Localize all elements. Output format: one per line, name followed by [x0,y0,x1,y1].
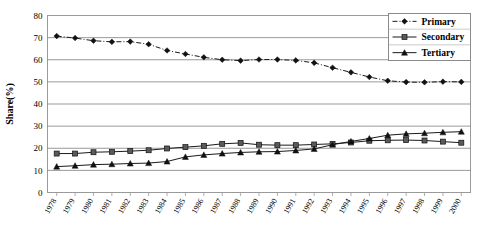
y-tick-label: 70 [34,33,44,43]
data-point-marker [73,151,78,156]
chart-container: 01020304050607080 1978197919801981198219… [0,0,483,235]
data-point-marker [201,143,206,148]
data-point-marker [257,142,262,147]
data-point-marker [109,149,114,154]
data-point-marker [275,143,280,148]
data-point-marker [238,140,243,145]
x-tick-label: 1987 [208,197,224,215]
x-tick-label: 1978 [43,197,59,215]
y-tick-label: 50 [34,77,44,87]
y-tick-label: 80 [34,11,44,21]
data-point-marker [459,140,464,145]
y-tick-label: 60 [34,55,44,65]
x-tick-label: 1982 [116,197,132,215]
legend-label-primary: Primary [422,17,457,27]
x-axis-tick-labels: 1978197919801981198219831984198519861987… [43,197,463,215]
x-tick-label: 1996 [374,197,390,215]
x-tick-label: 1990 [263,197,279,215]
x-tick-label: 2000 [447,197,463,215]
data-point-marker [293,143,298,148]
x-tick-label: 1998 [410,197,426,215]
x-tick-label: 1993 [319,197,335,215]
y-axis-tick-labels: 01020304050607080 [34,11,44,198]
data-point-marker [404,138,409,143]
x-tick-label: 1986 [190,197,206,215]
x-tick-label: 1991 [282,197,298,215]
x-tick-label: 1994 [337,197,353,215]
data-point-marker [54,151,59,156]
y-axis-title: Share(%) [4,83,16,124]
data-point-marker [440,139,445,144]
x-tick-label: 1983 [135,197,151,215]
data-point-marker [128,149,133,154]
x-tick-label: 1985 [171,197,187,215]
x-tick-label: 1992 [300,197,316,215]
line-chart: 01020304050607080 1978197919801981198219… [0,0,483,235]
x-tick-label: 1980 [79,197,95,215]
x-tick-label: 1988 [227,197,243,215]
x-tick-label: 1995 [355,197,371,215]
data-point-marker [385,138,390,143]
data-point-marker [402,35,407,40]
legend-label-tertiary: Tertiary [422,48,456,58]
data-point-marker [165,146,170,151]
legend-label-secondary: Secondary [422,32,465,42]
x-tick-label: 1981 [98,197,114,215]
chart-legend: PrimarySecondaryTertiary [389,14,471,61]
x-tick-label: 1999 [429,197,445,215]
x-tick-label: 1979 [61,197,77,215]
data-point-marker [422,138,427,143]
data-point-marker [146,148,151,153]
x-tick-label: 1997 [392,197,408,215]
data-point-marker [91,150,96,155]
data-point-marker [220,141,225,146]
y-tick-label: 40 [34,99,44,109]
x-tick-label: 1989 [245,197,261,215]
y-tick-label: 10 [34,166,44,176]
x-tick-label: 1984 [153,197,169,215]
y-tick-label: 30 [34,121,44,131]
x-axis-tick-marks [57,193,462,197]
data-point-marker [183,145,188,150]
y-tick-label: 0 [38,188,43,198]
y-tick-label: 20 [34,143,44,153]
